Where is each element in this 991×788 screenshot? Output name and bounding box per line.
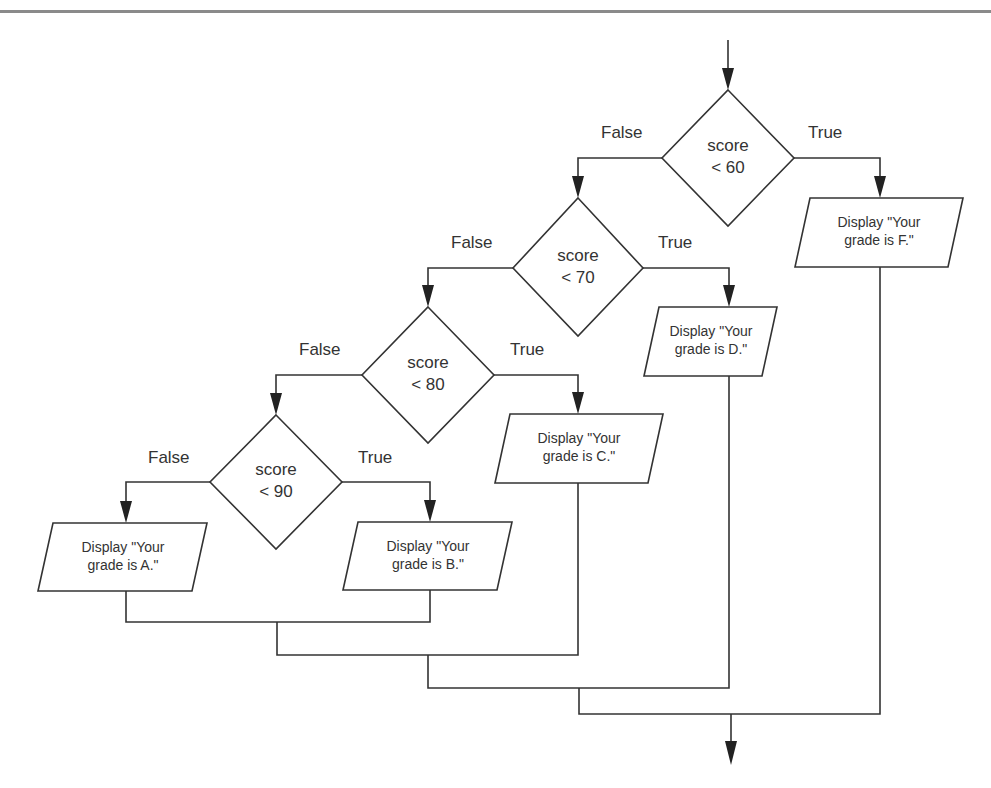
flowchart-canvas (0, 0, 991, 788)
output-c-line1: Display "Your (504, 429, 654, 447)
decision-text-90: score < 90 (226, 459, 326, 503)
output-d-line1: Display "Your (636, 322, 786, 340)
connector-true-80 (494, 375, 584, 414)
decision-90-line1: score (226, 459, 326, 481)
decision-text-60: score < 60 (678, 135, 778, 179)
decision-60-line2: < 60 (678, 157, 778, 179)
decision-80-line1: score (378, 352, 478, 374)
output-text-c: Display "Your grade is C." (504, 429, 654, 465)
output-d-line2: grade is D." (636, 340, 786, 358)
decision-60-line1: score (678, 135, 778, 157)
decision-90-line2: < 90 (226, 481, 326, 503)
edge-label-true-80: True (510, 341, 544, 358)
edge-label-false-90: False (148, 449, 190, 466)
output-text-f: Display "Your grade is F." (804, 213, 954, 249)
output-text-b: Display "Your grade is B." (353, 537, 503, 573)
connector-false-60 (572, 158, 662, 198)
edge-label-false-80: False (299, 341, 341, 358)
edge-label-true-60: True (808, 124, 842, 141)
connector-true-70 (643, 268, 735, 307)
output-text-d: Display "Your grade is D." (636, 322, 786, 358)
output-c-line2: grade is C." (504, 447, 654, 465)
edge-label-false-60: False (601, 124, 643, 141)
output-b-line1: Display "Your (353, 537, 503, 555)
output-text-a: Display "Your grade is A." (48, 538, 198, 574)
exit-arrow-icon (725, 741, 737, 765)
edge-label-true-70: True (658, 234, 692, 251)
connector-false-90 (120, 482, 210, 523)
decision-text-80: score < 80 (378, 352, 478, 396)
output-f-line2: grade is F." (804, 231, 954, 249)
edge-label-false-70: False (451, 234, 493, 251)
edge-label-true-90: True (358, 449, 392, 466)
output-a-line2: grade is A." (48, 556, 198, 574)
output-a-line1: Display "Your (48, 538, 198, 556)
output-b-line2: grade is B." (353, 555, 503, 573)
connector-true-60 (794, 158, 886, 198)
decision-text-70: score < 70 (528, 245, 628, 289)
connector-true-90 (342, 482, 436, 522)
connector-false-70 (422, 268, 513, 307)
connector-false-80 (270, 375, 362, 415)
output-f-line1: Display "Your (804, 213, 954, 231)
decision-70-line1: score (528, 245, 628, 267)
decision-70-line2: < 70 (528, 267, 628, 289)
entry-arrow-icon (722, 40, 734, 90)
decision-80-line2: < 80 (378, 374, 478, 396)
